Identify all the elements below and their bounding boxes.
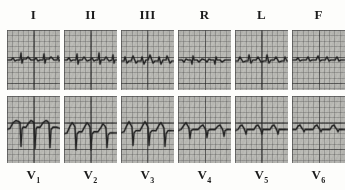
- lead-label-ii-text: II: [85, 7, 96, 22]
- label-spacer: [231, 6, 235, 24]
- lead-label-ii: II: [64, 6, 117, 24]
- row-left-gutter: [0, 96, 7, 163]
- label-spacer: [117, 6, 121, 24]
- paper-grain: [121, 96, 174, 163]
- lead-label-v4-text: V: [198, 167, 208, 182]
- ecg-panel-lead-avf: [292, 30, 345, 90]
- precordial-lead-panel-row: [0, 96, 341, 163]
- lead-label-i: I: [7, 6, 60, 24]
- label-spacer: [174, 166, 178, 186]
- ecg-panel-lead-v4: [178, 96, 231, 163]
- paper-grain: [292, 96, 345, 163]
- precordial-lead-label-row: V1 V2 V3 V4 V5 V6: [0, 166, 341, 186]
- paper-grain: [7, 96, 60, 163]
- paper-grain: [7, 30, 60, 90]
- row-left-gutter: [0, 30, 7, 90]
- lead-label-iii-text: III: [140, 7, 156, 22]
- ecg-panel-lead-v2: [64, 96, 117, 163]
- label-spacer: [231, 166, 235, 186]
- lead-label-v6: V6: [292, 166, 345, 186]
- lead-label-v5-text: V: [255, 167, 265, 182]
- lead-label-r: R: [178, 6, 231, 24]
- lead-label-l: L: [235, 6, 288, 24]
- lead-label-v1-subscript: 1: [36, 176, 40, 185]
- paper-grain: [235, 96, 288, 163]
- paper-grain: [235, 30, 288, 90]
- paper-grain: [121, 30, 174, 90]
- label-spacer: [288, 6, 292, 24]
- label-spacer: [60, 6, 64, 24]
- label-spacer: [117, 166, 121, 186]
- ecg-panel-lead-avr: [178, 30, 231, 90]
- lead-label-v3: V3: [121, 166, 174, 186]
- ecg-panel-lead-i: [7, 30, 60, 90]
- label-spacer: [60, 166, 64, 186]
- ecg-panel-lead-v1: [7, 96, 60, 163]
- lead-label-f-text: F: [314, 7, 322, 22]
- limb-lead-panel-row: [0, 30, 341, 90]
- lead-label-f: F: [292, 6, 345, 24]
- lead-label-v2-text: V: [84, 167, 94, 182]
- paper-grain: [64, 30, 117, 90]
- lead-label-v6-subscript: 6: [321, 176, 325, 185]
- lead-label-v3-subscript: 3: [150, 176, 154, 185]
- lead-label-l-text: L: [257, 7, 266, 22]
- row-left-gutter: [0, 166, 7, 186]
- paper-grain: [178, 96, 231, 163]
- ecg-panel-lead-iii: [121, 30, 174, 90]
- row-left-gutter: [0, 6, 7, 24]
- paper-grain: [64, 96, 117, 163]
- lead-label-v2-subscript: 2: [93, 176, 97, 185]
- paper-grain: [178, 30, 231, 90]
- label-spacer: [288, 166, 292, 186]
- ecg-panel-lead-v6: [292, 96, 345, 163]
- lead-label-v4-subscript: 4: [207, 176, 211, 185]
- lead-label-iii: III: [121, 6, 174, 24]
- lead-label-v1: V1: [7, 166, 60, 186]
- ecg-panel-lead-v3: [121, 96, 174, 163]
- lead-label-v1-text: V: [27, 167, 37, 182]
- lead-label-v3-text: V: [141, 167, 151, 182]
- ecg-panel-lead-v5: [235, 96, 288, 163]
- lead-label-i-text: I: [31, 7, 36, 22]
- paper-grain: [292, 30, 345, 90]
- lead-label-r-text: R: [200, 7, 210, 22]
- lead-label-v5-subscript: 5: [264, 176, 268, 185]
- ecg-panel-lead-avl: [235, 30, 288, 90]
- limb-lead-label-row: I II III R L F: [0, 6, 341, 24]
- ecg-panel-lead-ii: [64, 30, 117, 90]
- lead-label-v4: V4: [178, 166, 231, 186]
- lead-label-v2: V2: [64, 166, 117, 186]
- lead-label-v6-text: V: [312, 167, 322, 182]
- label-spacer: [174, 6, 178, 24]
- lead-label-v5: V5: [235, 166, 288, 186]
